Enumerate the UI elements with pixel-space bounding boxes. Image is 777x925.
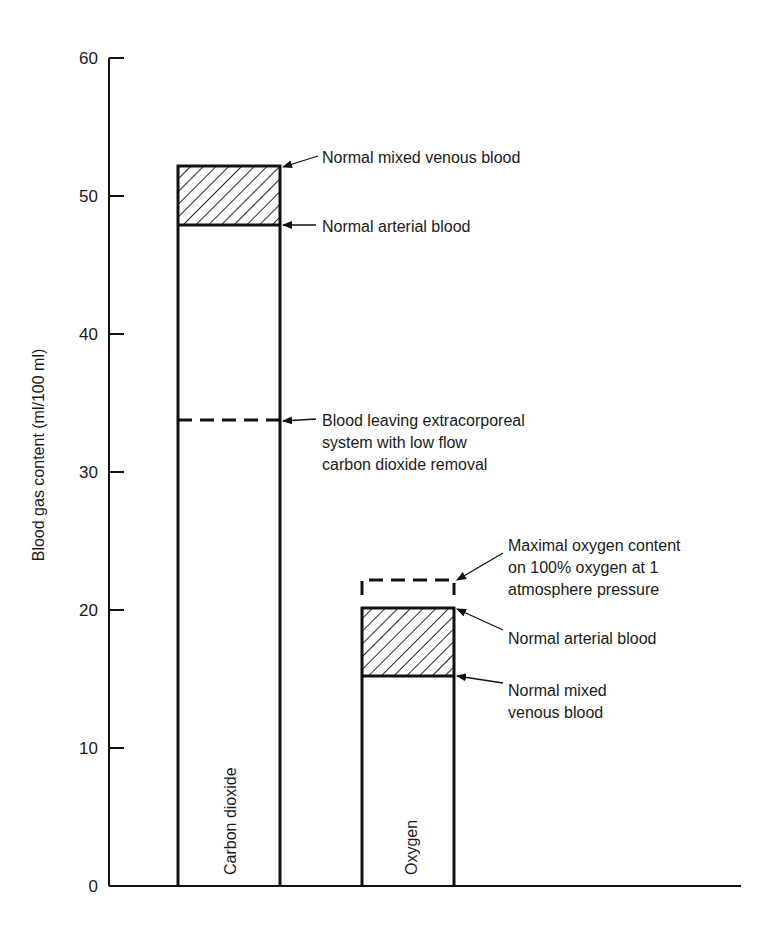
arrow-icon	[457, 553, 503, 580]
co2-hatched-range	[178, 166, 280, 225]
annotation-co2-arterial: Normal arterial blood	[322, 218, 471, 235]
annotation-o2-max-line2: on 100% oxygen at 1	[508, 559, 658, 576]
arrow-icon	[457, 609, 503, 630]
co2-annotations: Normal mixed venous blood Normal arteria…	[283, 149, 525, 473]
arrow-icon	[457, 676, 503, 683]
annotation-o2-venous-line2: venous blood	[508, 704, 603, 721]
y-tick-label: 30	[79, 463, 98, 482]
bar-oxygen: Oxygen	[362, 580, 454, 886]
annotation-co2-extracorporeal-line1: Blood leaving extracorporeal	[322, 412, 525, 429]
annotation-o2-max-line3: atmosphere pressure	[508, 581, 659, 598]
y-axis: 60 50 40 30 20 10 0 Blood gas content (m…	[30, 49, 124, 896]
y-tick-label: 20	[79, 601, 98, 620]
blood-gas-chart: 60 50 40 30 20 10 0 Blood gas content (m…	[0, 0, 777, 925]
y-tick-label: 10	[79, 739, 98, 758]
y-tick-label: 40	[79, 325, 98, 344]
o2-bar-label: Oxygen	[403, 820, 420, 875]
annotation-o2-arterial: Normal arterial blood	[508, 630, 657, 647]
annotation-co2-venous: Normal mixed venous blood	[322, 149, 520, 166]
annotation-o2-venous-line1: Normal mixed	[508, 682, 607, 699]
y-tick-label: 0	[89, 877, 98, 896]
annotation-o2-max-line1: Maximal oxygen content	[508, 537, 681, 554]
annotation-co2-extracorporeal-line3: carbon dioxide removal	[322, 456, 487, 473]
y-tick-label: 60	[79, 49, 98, 68]
co2-bar-label: Carbon dioxide	[222, 767, 239, 875]
arrow-icon	[283, 419, 316, 421]
o2-max-dashed-line	[362, 580, 454, 595]
bar-carbon-dioxide: Carbon dioxide	[178, 166, 280, 886]
y-axis-title: Blood gas content (ml/100 ml)	[30, 349, 47, 562]
y-tick-label: 50	[79, 187, 98, 206]
arrow-icon	[283, 156, 318, 167]
annotation-co2-extracorporeal-line2: system with low flow	[322, 434, 467, 451]
o2-hatched-range	[362, 608, 454, 676]
o2-annotations: Maximal oxygen content on 100% oxygen at…	[457, 537, 681, 721]
